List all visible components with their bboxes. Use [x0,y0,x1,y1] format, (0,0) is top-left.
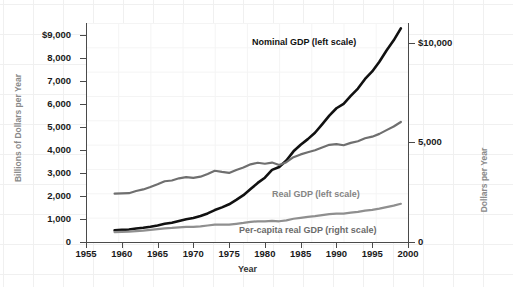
y-axis-left-title: Billions of Dollars per Year [13,58,23,198]
series-line [115,28,401,230]
gdp-chart: 01,0002,0003,0004,0005,0006,0007,0008,00… [0,0,513,287]
annotation-per-capita-real-gdp: Per-capita real GDP (right scale) [239,226,376,235]
annotation-real-gdp: Real GDP (left scale) [272,190,360,199]
annotation-nominal-gdp: Nominal GDP (left scale) [252,38,356,47]
y-axis-right-title: Dollars per Year [479,110,489,250]
x-axis-title: Year [86,264,409,274]
